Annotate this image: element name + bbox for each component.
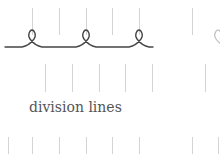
division-lines-group <box>9 8 219 154</box>
division-lines-label: division lines <box>29 99 122 115</box>
division-lines-diagram <box>0 0 220 154</box>
looped-curve-edge <box>215 30 220 47</box>
looped-curve <box>5 30 153 47</box>
